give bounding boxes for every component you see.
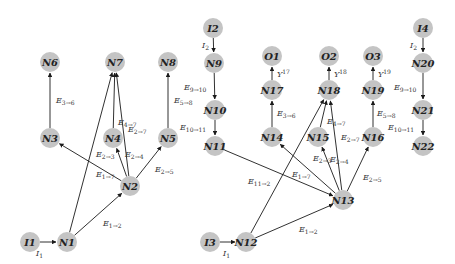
node-label: O1 xyxy=(264,51,280,62)
edge-label: E11→2 xyxy=(247,177,271,187)
node-label: N14 xyxy=(259,132,283,143)
network-diagram: N6N7N8N3N4N5N2I1N1I2N9N10N11O1N17N14O2N1… xyxy=(0,0,455,264)
edge-n1-to-n2 xyxy=(74,193,121,235)
edge-label: E2→7 xyxy=(127,125,147,135)
edge-label: E4→7 xyxy=(326,117,346,127)
edge-label: E5→8 xyxy=(376,109,396,119)
node-label: N13 xyxy=(330,195,354,206)
edge-label: E2→7 xyxy=(340,133,360,143)
node-n19: N19 xyxy=(360,80,384,100)
node-n9: N9 xyxy=(204,53,224,73)
edge-label: E3→6 xyxy=(55,96,75,106)
node-o1: O1 xyxy=(262,46,282,66)
node-n10: N10 xyxy=(202,100,226,120)
node-label: O3 xyxy=(365,51,381,62)
edge-label: Y18 xyxy=(334,68,347,79)
node-n20: N20 xyxy=(410,53,434,73)
node-n4: N4 xyxy=(103,128,123,148)
node-label: N22 xyxy=(410,141,434,152)
nodes-layer: N6N7N8N3N4N5N2I1N1I2N9N10N11O1N17N14O2N1… xyxy=(20,18,435,252)
edge-label: I1 xyxy=(222,249,230,259)
edge-n9-to-n10 xyxy=(214,73,215,99)
edge-label: Y19 xyxy=(378,68,391,79)
node-label: I4 xyxy=(416,23,429,34)
edge-label: E2→5 xyxy=(154,165,174,175)
node-label: N6 xyxy=(41,57,58,68)
node-label: N9 xyxy=(205,58,222,69)
node-label: N11 xyxy=(202,141,226,152)
edge-label: I1 xyxy=(35,249,43,259)
edge-label: E10→11 xyxy=(387,123,414,133)
node-label: N4 xyxy=(104,133,121,144)
edge-n13-to-n14 xyxy=(280,144,335,193)
node-label: I3 xyxy=(203,237,216,248)
node-label: N8 xyxy=(159,57,176,68)
edge-label: E10→11 xyxy=(179,123,206,133)
node-label: N5 xyxy=(159,133,176,144)
node-label: N12 xyxy=(233,237,257,248)
edge-n13-to-n18 xyxy=(330,101,341,190)
node-i4: I4 xyxy=(413,18,433,38)
edge-label: E2→3 xyxy=(312,154,332,164)
edge-n13-to-n16 xyxy=(347,147,368,191)
edge-label: E1→7 xyxy=(291,170,311,180)
node-i2: I2 xyxy=(203,18,223,38)
node-label: I2 xyxy=(206,23,219,34)
node-n5: N5 xyxy=(158,128,178,148)
node-n8: N8 xyxy=(158,52,178,72)
node-n13: N13 xyxy=(330,190,354,210)
node-label: N2 xyxy=(121,181,138,192)
edge-label: E2→5 xyxy=(362,173,382,183)
node-n11: N11 xyxy=(202,136,226,156)
edge-label: E2→4 xyxy=(329,155,349,165)
node-label: N19 xyxy=(360,85,384,96)
node-n18: N18 xyxy=(316,80,340,100)
node-label: N15 xyxy=(305,132,329,143)
edge-n12-to-n13 xyxy=(255,204,333,238)
edge-n4-to-n7 xyxy=(113,73,114,128)
node-label: N3 xyxy=(41,133,58,144)
node-i3: I3 xyxy=(200,232,220,252)
edge-label: I2 xyxy=(201,41,209,51)
node-label: N20 xyxy=(410,58,434,69)
node-n7: N7 xyxy=(105,52,125,72)
node-label: I1 xyxy=(23,237,36,248)
node-label: N16 xyxy=(360,132,384,143)
node-label: N1 xyxy=(58,237,75,248)
edge-label: E5→8 xyxy=(173,96,193,106)
node-label: N7 xyxy=(106,57,123,68)
node-o3: O3 xyxy=(363,46,383,66)
node-label: N17 xyxy=(259,85,283,96)
node-n12: N12 xyxy=(233,232,257,252)
node-label: N18 xyxy=(316,85,340,96)
node-label: N21 xyxy=(410,105,434,116)
node-n14: N14 xyxy=(259,127,283,147)
edge-label: I2 xyxy=(409,41,417,51)
node-o2: O2 xyxy=(319,46,339,66)
node-n2: N2 xyxy=(120,176,140,196)
node-n17: N17 xyxy=(259,80,283,100)
node-label: N10 xyxy=(202,105,226,116)
edge-label: E2→4 xyxy=(124,150,144,160)
edge-label: E9→10 xyxy=(393,83,417,93)
edge-label: E1→2 xyxy=(102,219,122,229)
node-n6: N6 xyxy=(40,52,60,72)
edge-label: E1→2 xyxy=(298,225,318,235)
node-n22: N22 xyxy=(410,136,434,156)
node-n3: N3 xyxy=(40,128,60,148)
node-n15: N15 xyxy=(305,127,329,147)
edge-label: E2→3 xyxy=(95,150,115,160)
node-label: O2 xyxy=(321,51,337,62)
edge-label: E3→6 xyxy=(276,109,296,119)
edge-label: Y17 xyxy=(277,68,290,79)
edge-label: E1→7 xyxy=(95,170,115,180)
node-n1: N1 xyxy=(57,232,77,252)
edge-label: E9→10 xyxy=(183,83,207,93)
node-n21: N21 xyxy=(410,100,434,120)
node-n16: N16 xyxy=(360,127,384,147)
